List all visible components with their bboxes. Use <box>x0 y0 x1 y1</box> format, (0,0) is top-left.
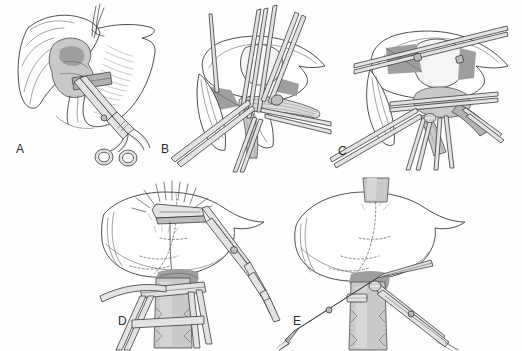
cystic-duct-stump-2 <box>77 96 78 122</box>
panel-a-artwork <box>0 0 172 172</box>
panel-e-artwork <box>285 178 522 351</box>
panel-label-a: A <box>16 143 25 155</box>
lower-right-shafts <box>462 108 504 143</box>
panel-label-c: C <box>338 145 347 157</box>
clamp-knob-right <box>455 55 463 63</box>
panel-label-b: B <box>161 143 170 155</box>
panel-b: B <box>165 0 333 172</box>
vena-cava-top-highlight <box>367 178 377 200</box>
clamp-knob-left <box>413 53 421 61</box>
panel-c: C <box>330 0 522 172</box>
panel-d-artwork <box>100 178 290 351</box>
panel-e: E <box>285 178 522 351</box>
cystic-duct-stump <box>67 96 70 124</box>
panel-b-artwork <box>165 0 333 172</box>
illustration-plate: A <box>0 0 522 351</box>
panel-label-e: E <box>293 315 302 327</box>
pivot-knot <box>369 281 381 291</box>
panel-d: D <box>100 178 290 351</box>
ligature-knot <box>424 114 436 123</box>
panel-a: A <box>0 0 172 172</box>
panel-label-d: D <box>118 315 127 327</box>
right-triangle-shading <box>458 48 476 80</box>
liver-outline <box>295 192 465 281</box>
panel-c-artwork <box>330 0 522 172</box>
